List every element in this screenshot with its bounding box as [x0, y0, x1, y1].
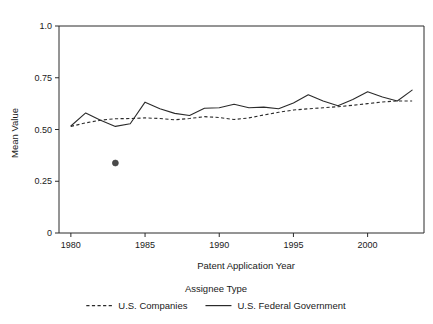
x-axis-title: Patent Application Year — [197, 260, 295, 271]
y-tick-label: 0.75 — [34, 73, 52, 83]
x-tick-label: 1995 — [283, 240, 303, 250]
x-tick-label: 1980 — [61, 240, 81, 250]
y-tick-label: 1.0 — [39, 21, 52, 31]
chart-background — [0, 0, 433, 324]
line-chart: 00.250.500.751.0 19801985199019952000 Me… — [0, 0, 433, 324]
legend-title: Assignee Type — [185, 283, 247, 294]
y-axis-title: Mean Value — [9, 108, 20, 158]
annotation-layer — [112, 160, 118, 166]
outlier-marker — [112, 160, 118, 166]
y-tick-label: 0.25 — [34, 176, 52, 186]
x-tick-label: 1990 — [209, 240, 229, 250]
x-tick-label: 2000 — [358, 240, 378, 250]
x-tick-label: 1985 — [135, 240, 155, 250]
chart-figure: 00.250.500.751.0 19801985199019952000 Me… — [0, 0, 433, 324]
legend-label-u-s-federal-government: U.S. Federal Government — [237, 300, 346, 311]
y-tick-label: 0.50 — [34, 125, 52, 135]
legend-label-u-s-companies: U.S. Companies — [118, 300, 187, 311]
y-tick-label: 0 — [47, 228, 52, 238]
